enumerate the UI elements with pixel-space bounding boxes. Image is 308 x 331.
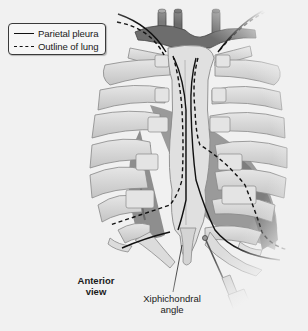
anatomy-figure: Parietal pleura Outline of lung Anterior… [0, 0, 308, 331]
callout-line2: angle [132, 304, 212, 315]
dashed-line-swatch-icon [14, 46, 34, 47]
legend-item-parietal-pleura: Parietal pleura [14, 27, 101, 40]
view-label: Anterior view [76, 275, 116, 297]
xiphichondral-angle-callout: Xiphichondral angle [132, 293, 212, 315]
legend-label: Outline of lung [38, 41, 98, 52]
view-label-line2: view [76, 286, 116, 297]
view-label-line1: Anterior [76, 275, 116, 286]
solid-line-swatch-icon [14, 33, 34, 34]
legend-label: Parietal pleura [38, 28, 98, 39]
callout-line1: Xiphichondral [132, 293, 212, 304]
legend: Parietal pleura Outline of lung [8, 23, 106, 55]
legend-item-outline-of-lung: Outline of lung [14, 40, 101, 53]
